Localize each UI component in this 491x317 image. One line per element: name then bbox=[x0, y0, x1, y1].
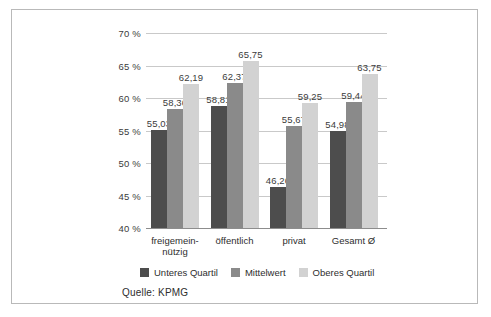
bar: 62,19 bbox=[183, 84, 199, 228]
bar-value-label: 62,19 bbox=[179, 72, 203, 83]
plot-area: 70 %65 %60 %55 %50 %45 %40 % 55,0358,366… bbox=[146, 33, 387, 228]
y-axis-tick-label: 50 % bbox=[119, 158, 141, 169]
x-axis-category-line: privat bbox=[282, 235, 305, 246]
bar: 55,03 bbox=[151, 130, 167, 228]
legend-item: Oberes Quartil bbox=[299, 267, 375, 278]
bar-group: 46,2655,6759,25privat bbox=[270, 33, 318, 228]
y-axis-tick-label: 45 % bbox=[119, 190, 141, 201]
bar: 62,37 bbox=[227, 83, 243, 228]
x-axis-line bbox=[146, 228, 387, 229]
bar-group: 54,9859,4463,75Gesamt Ø bbox=[330, 33, 378, 228]
y-axis-tick-label: 70 % bbox=[119, 28, 141, 39]
legend-item: Unteres Quartil bbox=[140, 267, 218, 278]
bar-value-label: 59,25 bbox=[298, 91, 322, 102]
bar: 59,44 bbox=[346, 102, 362, 228]
x-axis-category-label: freigemein-nützig bbox=[151, 235, 199, 257]
chart-figure: 70 %65 %60 %55 %50 %45 %40 % 55,0358,366… bbox=[0, 0, 491, 317]
legend-swatch-icon bbox=[299, 268, 308, 277]
legend-label: Oberes Quartil bbox=[313, 267, 375, 278]
x-axis-category-line: freigemein- bbox=[151, 235, 199, 246]
chart-legend: Unteres QuartilMittelwertOberes Quartil bbox=[140, 267, 374, 278]
bar-group: 55,0358,3662,19freigemein-nützig bbox=[151, 33, 199, 228]
bar: 54,98 bbox=[330, 131, 346, 228]
figure-frame: 70 %65 %60 %55 %50 %45 %40 % 55,0358,366… bbox=[11, 9, 478, 304]
y-axis-tick-label: 40 % bbox=[119, 223, 141, 234]
legend-label: Mittelwert bbox=[245, 267, 286, 278]
bar: 58,81 bbox=[211, 106, 227, 228]
y-axis-tick-label: 65 % bbox=[119, 60, 141, 71]
bar: 63,75 bbox=[362, 74, 378, 228]
x-axis-category-line: Gesamt Ø bbox=[332, 235, 375, 246]
bar-group: 58,8162,3765,75öffentlich bbox=[211, 33, 259, 228]
x-axis-category-label: Gesamt Ø bbox=[332, 235, 375, 246]
bar: 55,67 bbox=[286, 126, 302, 228]
x-axis-category-line: öffentlich bbox=[216, 235, 254, 246]
legend-label: Unteres Quartil bbox=[154, 267, 218, 278]
source-note: Quelle: KPMG bbox=[122, 287, 188, 298]
legend-swatch-icon bbox=[231, 268, 240, 277]
legend-swatch-icon bbox=[140, 268, 149, 277]
y-axis-tick-label: 60 % bbox=[119, 93, 141, 104]
bar: 65,75 bbox=[243, 61, 259, 228]
bar: 46,26 bbox=[270, 187, 286, 228]
bar-value-label: 65,75 bbox=[238, 49, 262, 60]
legend-item: Mittelwert bbox=[231, 267, 286, 278]
y-axis-tick-label: 55 % bbox=[119, 125, 141, 136]
bar: 59,25 bbox=[302, 103, 318, 228]
x-axis-category-line: nützig bbox=[151, 246, 199, 257]
x-axis-category-label: privat bbox=[282, 235, 305, 246]
x-axis-category-label: öffentlich bbox=[216, 235, 254, 246]
bar: 58,36 bbox=[167, 109, 183, 228]
bar-value-label: 63,75 bbox=[357, 62, 381, 73]
